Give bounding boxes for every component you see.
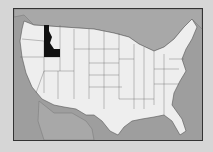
us-map [14,9,202,140]
map-frame: Idaho [13,8,203,141]
